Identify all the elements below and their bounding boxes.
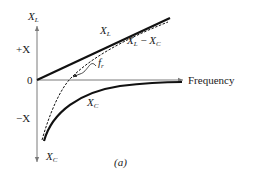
y-top-label: XL	[27, 10, 39, 24]
zero-tick: 0	[27, 74, 33, 86]
y-bottom-label: XC	[45, 150, 58, 164]
net-curve-label: XL − XC	[126, 34, 161, 48]
xc-curve-label: XC	[86, 96, 99, 110]
reactance-vs-frequency-diagram: XL +X 0 −X XC Frequency XL XL − XC XC fr…	[0, 0, 255, 187]
minus-x-tick: −X	[16, 112, 30, 124]
figure-caption: (a)	[114, 156, 127, 169]
fr-label: fr	[98, 56, 104, 70]
plus-x-tick: +X	[16, 43, 30, 55]
xc-curve	[44, 82, 182, 141]
xl-curve-label: XL	[99, 24, 111, 38]
fr-leader-line	[73, 64, 96, 77]
x-axis-label: Frequency	[188, 74, 235, 86]
